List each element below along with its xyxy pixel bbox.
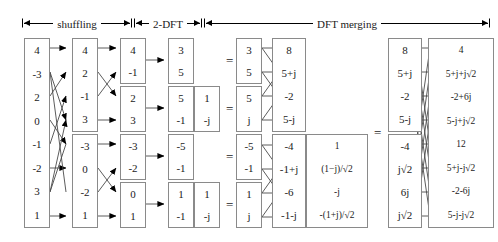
cell: -2: [273, 91, 305, 102]
cell: 4: [429, 46, 493, 56]
cell: -2+6j: [429, 93, 493, 103]
cell: 4: [121, 45, 145, 56]
box-twiddled-pair-4: 1 j: [236, 182, 262, 228]
box-shuffled-odd: -3 0 -2 1: [72, 134, 98, 228]
cell: 3: [25, 186, 49, 197]
box-pair-3: -3 -2: [120, 134, 146, 180]
cell: -6: [273, 187, 305, 198]
cell: 0: [121, 189, 145, 200]
cell: 3: [169, 45, 193, 56]
cell: -1: [73, 91, 97, 102]
box-input-vector: 4 -3 2 0 -1 -2 3 1: [24, 38, 50, 228]
header-span-shuffling: shuffling: [22, 14, 132, 32]
cell: 1: [25, 210, 49, 221]
cell: 5+j+j√2: [429, 70, 493, 80]
cell: 12: [429, 140, 493, 150]
cell: -5: [237, 141, 261, 152]
cell: -3: [25, 69, 49, 80]
cell: -2: [25, 163, 49, 174]
cell: -4: [389, 141, 421, 152]
box-twiddled-pair-3: -5 -1: [236, 134, 262, 180]
cell: 3: [121, 115, 145, 126]
box-4dft-lower: -4 -1+j -6 -1-j: [272, 134, 306, 228]
header-span-dft-merging: DFT merging: [204, 14, 490, 32]
wires-2dft: [146, 60, 164, 204]
fft-butterfly-diagram: shuffling 2-DFT DFT merging: [0, 0, 498, 242]
box-shuffled-even: 4 2 -1 3: [72, 38, 98, 132]
cell: -1: [121, 67, 145, 78]
cell: 1: [169, 189, 193, 200]
cell: 5+j-j√2: [429, 164, 493, 174]
label-shuffling: shuffling: [53, 18, 101, 30]
cell: -1: [169, 115, 193, 126]
cell: 1: [121, 211, 145, 222]
cell: 2: [121, 93, 145, 104]
cell: 5: [169, 67, 193, 78]
box-2dft-2: 5 -1: [168, 86, 194, 132]
cell: -1: [169, 211, 193, 222]
cell: 1: [307, 142, 367, 152]
box-twiddled-quad-upper: 8 5+j -2 5-j: [388, 38, 422, 132]
wires-shuffle-1: [50, 48, 66, 216]
box-4dft-upper: 8 5+j -2 5-j: [272, 38, 306, 132]
cell: -1: [169, 163, 193, 174]
label-dft-merging: DFT merging: [313, 18, 381, 30]
cell: j√2: [389, 164, 421, 175]
equals-sign-4: =: [226, 198, 233, 211]
cell: -(1+j)/√2: [307, 211, 367, 221]
label-2dft: 2-DFT: [149, 18, 187, 30]
cell: -1: [237, 163, 261, 174]
cell: -3: [121, 141, 145, 152]
cell: 5: [237, 93, 261, 104]
cell: 5+j: [389, 68, 421, 79]
equals-sign-3: =: [226, 150, 233, 163]
cell: -2: [121, 163, 145, 174]
cell: 1: [195, 189, 219, 200]
cell: -j: [195, 115, 219, 126]
cell: 6j: [389, 187, 421, 198]
cell: 5: [237, 67, 261, 78]
cell: -5: [169, 141, 193, 152]
box-2dft-3: -5 -1: [168, 134, 194, 180]
box-4dft-twiddle: 1 (1−j)/√2 -j -(1+j)/√2: [306, 134, 368, 228]
equals-sign-1: =: [226, 54, 233, 67]
cell: -1+j: [273, 164, 305, 175]
cell: 3: [237, 45, 261, 56]
cell: -1-j: [273, 210, 305, 221]
cell: j√2: [389, 210, 421, 221]
equals-sign-5: =: [374, 126, 381, 139]
cell: -2: [389, 91, 421, 102]
box-twiddle-4: 1 -j: [194, 182, 220, 228]
equals-sign-2: =: [226, 102, 233, 115]
cell: 4: [25, 45, 49, 56]
cell: 1: [237, 189, 261, 200]
wires-shuffle-2: [98, 48, 116, 216]
cell: j: [237, 115, 261, 126]
cell: 8: [389, 45, 421, 56]
cell: 5-j: [389, 114, 421, 125]
cell: -j: [195, 211, 219, 222]
box-2dft-4: 1 -1: [168, 182, 194, 228]
cell: 5-j+j√2: [429, 117, 493, 127]
cell: 5-j: [273, 114, 305, 125]
cell: 5+j: [273, 68, 305, 79]
cell: -3: [73, 141, 97, 152]
cell: 5-j-j√2: [429, 211, 493, 221]
cell: 1: [195, 93, 219, 104]
box-pair-2: 2 3: [120, 86, 146, 132]
cell: (1−j)/√2: [307, 165, 367, 175]
box-pair-1: 4 -1: [120, 38, 146, 84]
cell: -1: [25, 139, 49, 150]
box-2dft-1: 3 5: [168, 38, 194, 84]
box-output-vector: 4 5+j+j√2 -2+6j 5-j+j√2 12 5+j-j√2 -2-6j…: [428, 38, 494, 228]
cell: 2: [73, 68, 97, 79]
cell: 0: [73, 164, 97, 175]
box-twiddled-pair-2: 5 j: [236, 86, 262, 132]
cell: -2: [73, 187, 97, 198]
cell: 3: [73, 114, 97, 125]
cell: 5: [169, 93, 193, 104]
cell: 2: [25, 92, 49, 103]
cell: -2-6j: [429, 187, 493, 197]
box-twiddled-pair-1: 3 5: [236, 38, 262, 84]
box-pair-4: 0 1: [120, 182, 146, 228]
